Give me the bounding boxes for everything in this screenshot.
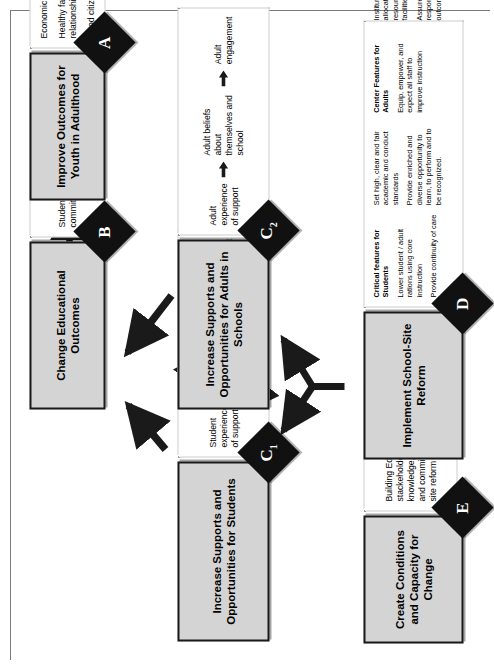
node-d-title-box[interactable]: Implement School-Site Reform [364,312,464,460]
node-a-letter: A [96,36,113,48]
node-b-title: Change Educational Outcomes [53,249,81,403]
node-c1-subscript: 1 [268,444,279,449]
node-c1-title: Increase Supports and Opportunities for … [209,469,237,635]
node-e-title-box[interactable]: Create Conditions and Capacity for Chang… [364,516,464,644]
node-d[interactable]: Implement School-Site Reform Critical fe… [364,312,464,460]
connector-c2-to-b [128,296,172,353]
node-d-students-item-3: Provide enriched and diverse opportunity… [405,122,443,205]
flowchart-canvas: Change Educational Outcomes Student perf… [12,11,482,656]
node-b[interactable]: Change Educational Outcomes Student perf… [30,242,106,410]
node-d-adults-item-1: Institute flexible allocation of availab… [372,0,410,21]
chain-arrow-icon [219,70,229,86]
node-c1-chain-0: Student experience of support [207,405,240,447]
node-d-letter: D [454,297,471,309]
node-d-detail-box: Critical features for Students Lower stu… [364,21,464,308]
node-d-students-item-0: Lower student / adult rations using core… [395,214,423,297]
node-a-title-box[interactable]: Improve Outcomes for Youth in Adulthood [30,53,106,201]
node-c2-title: Increase Supports and Opportunities for … [202,247,244,403]
node-e-letter: E [454,502,471,513]
node-d-adults-heading: Center Features for Adults [372,30,391,113]
node-c1-letter: C1 [258,444,278,461]
node-a-item-1: Healthy family and social relationships [57,0,79,39]
node-a[interactable]: Improve Outcomes for Youth in Adulthood … [30,53,106,201]
node-c2-chain: Adult experience of support Adult belief… [202,17,246,226]
node-c2-subscript: 2 [268,222,279,227]
chain-arrow-icon [219,161,229,177]
connector-c1-to-b [129,406,166,450]
node-c2-chain-2: Adult engagement [213,17,235,65]
node-c1[interactable]: Increase Supports and Opportunities for … [178,462,270,642]
node-c1-title-box[interactable]: Increase Supports and Opportunities for … [178,462,270,642]
node-c2-letter: C2 [258,222,278,239]
node-d-students-heading: Critical features for Students [372,214,391,297]
node-d-students-item-2: Set high, clear and fair academic and co… [372,122,400,205]
node-b-letter: B [96,226,113,237]
node-c2-chain-1: Adult beliefs about themselves and schoo… [202,92,246,155]
node-e-title: Create Conditions and Capacity for Chang… [392,523,434,637]
diagram-page: Change Educational Outcomes Student perf… [0,0,494,667]
node-c2-chain-0: Adult experience of support [207,183,240,225]
node-c2-detail-box: Adult experience of support Adult belief… [178,8,270,236]
connector-d-to-c1-c2 [284,340,345,431]
node-a-title: Improve Outcomes for Youth in Adulthood [53,60,81,194]
node-d-adults-item-0: Equip, empower, and expect all staff to … [395,30,423,113]
node-c2-title-box[interactable]: Increase Supports and Opportunities for … [178,240,270,410]
node-c2[interactable]: Increase Supports and Opportunities for … [178,240,270,410]
node-b-title-box[interactable]: Change Educational Outcomes [30,242,106,410]
node-d-students-item-1: Provide continuity of care [429,214,438,297]
node-d-title: Implement School-Site Reform [399,319,427,453]
node-e[interactable]: Create Conditions and Capacity for Chang… [364,516,464,644]
node-d-adults-item-2: Assure collective responsibility for stu… [414,0,442,21]
node-a-item-0: Economic self-sufficiency [39,0,50,39]
